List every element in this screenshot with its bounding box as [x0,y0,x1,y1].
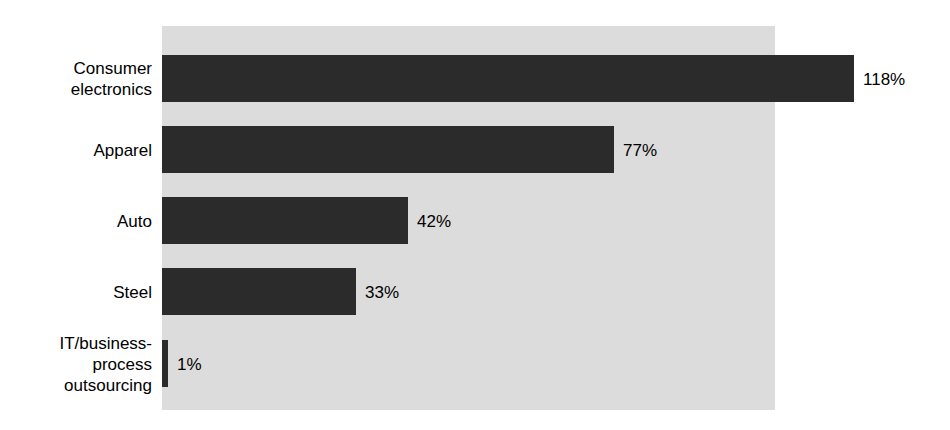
category-label-apparel: Apparel [0,139,152,160]
value-label-apparel: 77% [623,139,657,160]
bar-it-business-process-outsourcing [162,340,168,387]
value-label-steel: 33% [365,281,399,302]
category-label-consumer-electronics: Consumer electronics [0,58,152,100]
table-row: Steel 33% [0,268,950,315]
bar-auto [162,197,408,244]
bar-steel [162,268,356,315]
bar-apparel [162,126,614,173]
category-label-steel: Steel [0,281,152,302]
category-label-auto: Auto [0,210,152,231]
bar-chart: Consumer electronics 118% Apparel 77% Au… [0,0,950,430]
table-row: Apparel 77% [0,126,950,173]
value-label-auto: 42% [417,210,451,231]
table-row: Consumer electronics 118% [0,55,950,102]
value-label-consumer-electronics: 118% [863,68,905,89]
value-label-it-business-process-outsourcing: 1% [177,353,202,374]
bar-rows-container: Consumer electronics 118% Apparel 77% Au… [0,0,950,430]
bar-consumer-electronics [162,55,854,102]
table-row: Auto 42% [0,197,950,244]
category-label-it-business-process-outsourcing: IT/business- process outsourcing [0,332,152,395]
table-row: IT/business- process outsourcing 1% [0,340,950,387]
